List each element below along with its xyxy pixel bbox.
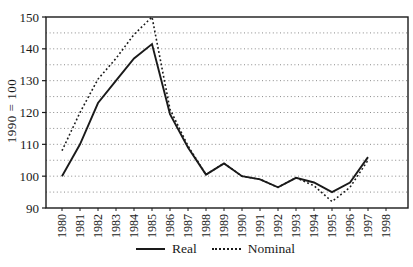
x-tick-label: 1997	[361, 214, 375, 238]
x-tick-label: 1989	[217, 214, 231, 238]
x-tick-label: 1998	[379, 214, 393, 238]
x-tick-label: 1984	[127, 214, 141, 238]
x-tick-label: 1993	[289, 214, 303, 238]
chart-plot-area: 9010011012013014015019801981198219831984…	[0, 0, 413, 267]
x-tick-label: 1996	[343, 214, 357, 238]
line-chart-figure: 1990 = 100 90100110120130140150198019811…	[0, 0, 413, 267]
y-tick-label: 90	[26, 201, 39, 216]
x-tick-label: 1987	[181, 214, 195, 238]
x-tick-label: 1983	[109, 214, 123, 238]
real-line-sample-icon	[136, 248, 165, 250]
nominal-line-sample-icon	[212, 248, 241, 250]
y-tick-label: 150	[20, 10, 40, 25]
x-tick-label: 1994	[307, 214, 321, 238]
legend-item-nominal: Nominal	[212, 241, 295, 257]
x-tick-label: 1992	[271, 214, 285, 238]
x-tick-label: 1982	[91, 214, 105, 238]
y-axis-title: 1990 = 100	[4, 68, 20, 154]
x-tick-label: 1986	[163, 214, 177, 238]
legend-item-real: Real	[136, 241, 197, 257]
x-tick-label: 1995	[325, 214, 339, 238]
x-tick-label: 1990	[235, 214, 249, 238]
nominal-line	[62, 17, 368, 202]
x-tick-label: 1981	[73, 214, 87, 238]
y-tick-label: 100	[20, 169, 40, 184]
x-tick-label: 1991	[253, 214, 267, 238]
x-tick-label: 1980	[55, 214, 69, 238]
chart-legend: Real Nominal	[0, 241, 413, 257]
y-tick-label: 120	[20, 105, 40, 120]
y-tick-label: 130	[20, 73, 40, 88]
legend-label-nominal: Nominal	[248, 241, 295, 257]
x-tick-label: 1985	[145, 214, 159, 238]
x-tick-label: 1988	[199, 214, 213, 238]
y-tick-label: 110	[20, 137, 39, 152]
legend-label-real: Real	[172, 241, 197, 257]
y-tick-label: 140	[20, 41, 40, 56]
